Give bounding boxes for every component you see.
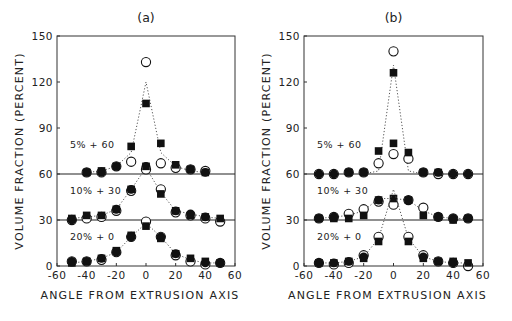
y-axis-label: VOLUME FRACTION (PERCENT) (13, 52, 26, 249)
filled-circle-marker (329, 259, 338, 268)
filled-circle-marker (127, 232, 136, 241)
open-circle-marker (389, 149, 398, 158)
filled-circle-marker (419, 168, 428, 177)
y-tick-label: 90 (286, 122, 300, 134)
filled-circle-marker (315, 170, 324, 179)
filled-square-marker (405, 149, 413, 157)
filled-circle-marker (449, 259, 458, 268)
panel-title: (b) (385, 10, 403, 25)
x-tick-label: 20 (168, 269, 182, 281)
group-label: 5% + 60 (70, 139, 115, 150)
filled-square-marker (390, 140, 398, 148)
filled-square-marker (375, 147, 383, 155)
filled-circle-marker (82, 257, 91, 266)
filled-square-marker (127, 143, 135, 151)
y-axis-label: VOLUME FRACTION (PERCENT) (260, 52, 273, 249)
filled-circle-marker (449, 214, 458, 223)
y-tick-label: 120 (278, 76, 300, 88)
filled-circle-marker (201, 259, 210, 268)
x-tick-label: -60 (48, 269, 67, 281)
x-tick-label: -40 (325, 269, 344, 281)
filled-square-marker (345, 215, 353, 223)
filled-square-marker (187, 255, 195, 263)
filled-circle-marker (315, 259, 324, 268)
filled-circle-marker (329, 213, 338, 222)
series-group: 5% + 60 (314, 47, 472, 179)
y-tick-label: 60 (286, 168, 300, 180)
group-label: 10% + 30 (70, 185, 121, 196)
filled-circle-marker (419, 252, 428, 261)
filled-circle-marker (201, 168, 210, 177)
y-tick-label: 30 (39, 214, 53, 226)
open-circle-marker (127, 157, 136, 166)
x-tick-label: 0 (390, 269, 397, 281)
y-tick-label: 150 (278, 30, 300, 42)
filled-circle-marker (171, 249, 180, 258)
filled-circle-marker (449, 170, 458, 179)
group-label: 20% + 0 (317, 231, 362, 242)
filled-circle-marker (464, 214, 473, 223)
x-tick-label: 60 (476, 269, 490, 281)
series-group: 5% + 60 (70, 57, 210, 177)
filled-circle-marker (156, 232, 165, 241)
y-tick-label: 150 (31, 30, 53, 42)
x-tick-label: -40 (77, 269, 96, 281)
filled-square-marker (390, 195, 398, 203)
filled-circle-marker (359, 252, 368, 261)
open-circle-marker (141, 57, 150, 66)
fit-curve (87, 82, 206, 172)
x-tick-label: -20 (107, 269, 126, 281)
filled-square-marker (142, 222, 150, 230)
filled-square-marker (464, 259, 472, 267)
filled-circle-marker (434, 168, 443, 177)
open-circle-marker (156, 159, 165, 168)
open-circle-marker (374, 159, 383, 168)
filled-circle-marker (374, 196, 383, 205)
filled-circle-marker (434, 257, 443, 266)
chart-panel-a: (a)0306090120150-60-40-200204060ANGLE FR… (13, 10, 242, 302)
filled-square-marker (375, 238, 383, 246)
x-tick-label: -60 (295, 269, 314, 281)
y-tick-label: 60 (39, 168, 53, 180)
x-axis-label: ANGLE FROM EXTRUSION AXIS (40, 289, 239, 302)
filled-circle-marker (329, 170, 338, 179)
x-tick-label: 20 (416, 269, 430, 281)
x-tick-label: 60 (228, 269, 242, 281)
filled-circle-marker (344, 168, 353, 177)
filled-circle-marker (82, 168, 91, 177)
filled-circle-marker (67, 257, 76, 266)
open-circle-marker (389, 47, 398, 56)
filled-square-marker (420, 212, 428, 220)
filled-circle-marker (112, 248, 121, 257)
open-circle-marker (419, 203, 428, 212)
filled-circle-marker (315, 214, 324, 223)
x-tick-label: 40 (446, 269, 460, 281)
x-tick-label: 40 (198, 269, 212, 281)
filled-circle-marker (67, 216, 76, 225)
x-axis-label: ANGLE FROM EXTRUSION AXIS (288, 289, 487, 302)
series-group: 20% + 0 (67, 217, 225, 269)
filled-circle-marker (201, 213, 210, 222)
filled-square-marker (216, 215, 224, 223)
filled-square-marker (142, 163, 150, 171)
filled-square-marker (157, 190, 165, 198)
y-tick-label: 120 (31, 76, 53, 88)
filled-circle-marker (404, 196, 413, 205)
x-tick-label: 0 (142, 269, 149, 281)
filled-circle-marker (216, 259, 225, 268)
filled-square-marker (98, 212, 106, 220)
y-tick-label: 90 (39, 122, 53, 134)
filled-circle-marker (112, 205, 121, 214)
filled-circle-marker (186, 165, 195, 174)
filled-circle-marker (359, 168, 368, 177)
filled-circle-marker (97, 168, 106, 177)
filled-square-marker (142, 100, 150, 108)
filled-circle-marker (127, 185, 136, 194)
filled-square-marker (390, 69, 398, 77)
y-tick-label: 30 (286, 214, 300, 226)
filled-square-marker (172, 161, 180, 169)
filled-circle-marker (171, 206, 180, 215)
filled-circle-marker (112, 162, 121, 171)
x-tick-label: -20 (354, 269, 373, 281)
filled-square-marker (83, 212, 91, 220)
